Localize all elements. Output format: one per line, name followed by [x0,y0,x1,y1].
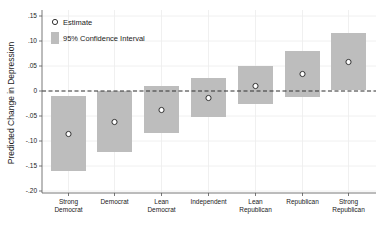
x-tick-label: Strong [59,198,79,206]
y-tick-label: .05 [28,62,37,69]
chart: .15.10.050-.05-.10-.15-.20 StrongDemocra… [0,0,387,227]
x-tick-label: Strong [339,198,359,206]
y-tick-label: -.15 [26,162,38,169]
estimate-marker [346,59,351,64]
legend-ci-swatch [51,32,59,44]
estimate-marker [112,119,117,124]
y-tick-label: .15 [28,12,37,19]
estimate-marker [159,107,164,112]
x-axis: StrongDemocratDemocratLeanDemocratIndepe… [42,193,376,214]
y-tick-label: .10 [28,37,37,44]
x-tick-label: Democrat [54,206,82,213]
legend-estimate-label: Estimate [63,18,92,27]
y-tick-label: -.05 [26,112,38,119]
x-tick-label: Republican [286,198,319,206]
x-tick-label: Republican [239,206,272,214]
estimate-marker [253,83,258,88]
estimate-marker [300,71,305,76]
y-axis: .15.10.050-.05-.10-.15-.20 [26,10,42,194]
x-tick-label: Democrat [100,198,128,205]
legend: Estimate 95% Confidence Interval [51,18,145,44]
legend-estimate-marker [52,19,57,24]
y-axis-label: Predicted Change in Depression [6,42,16,165]
x-tick-label: Republican [332,206,365,214]
legend-ci-label: 95% Confidence Interval [63,34,145,43]
x-tick-label: Lean [248,198,263,205]
x-tick-label: Lean [154,198,169,205]
x-tick-label: Democrat [147,206,175,213]
estimate-marker [206,95,211,100]
y-tick-label: 0 [33,87,37,94]
estimate-marker [66,131,71,136]
y-tick-label: -.10 [26,137,38,144]
x-tick-label: Independent [190,198,226,206]
y-tick-label: -.20 [26,187,38,194]
